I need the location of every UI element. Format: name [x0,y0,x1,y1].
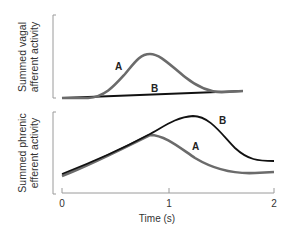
chart-svg: Summed vagal afferent activity A B 0 1 2… [0,0,293,239]
top-ylabel-line1: Summed vagal [16,22,28,92]
x-axis-ticks [62,188,274,193]
bottom-ylabel-line2: efferent activity [28,117,40,188]
bottom-label-b: B [219,115,226,126]
top-ylabel-line2: afferent activity [28,21,40,92]
bottom-ylabel-line1: Summed phrenic [16,113,28,192]
bottom-curve-b [62,116,274,174]
bottom-label-a: A [192,141,199,152]
top-label-b: B [151,83,158,94]
x-tick-2: 2 [271,198,277,209]
x-axis-label: Time (s) [139,213,175,224]
bottom-panel: 0 1 2 Time (s) Summed phrenic efferent a… [16,112,277,224]
top-label-a: A [115,61,122,72]
bottom-y-axis [53,112,56,194]
x-tick-1: 1 [166,198,172,209]
top-y-axis [53,15,56,98]
x-tick-0: 0 [59,198,65,209]
top-panel: Summed vagal afferent activity A B [16,15,243,98]
bottom-curve-a [62,135,274,176]
respiratory-activity-figure: Summed vagal afferent activity A B 0 1 2… [0,0,293,239]
